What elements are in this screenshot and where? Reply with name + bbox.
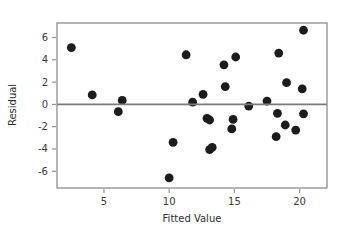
data-point [165, 174, 174, 183]
y-axis: 6420-2-4-6 [38, 32, 56, 177]
residual-scatter-figure: 5101520 6420-2-4-6 Fitted Value Residual [0, 0, 342, 231]
x-axis: 5101520 [101, 189, 306, 207]
data-point [281, 121, 290, 130]
residual-plot: 5101520 6420-2-4-6 Fitted Value Residual [0, 0, 342, 231]
data-point [169, 138, 178, 147]
data-point [291, 126, 300, 135]
y-tick-label: -2 [38, 121, 48, 132]
data-point [244, 102, 253, 111]
data-point [205, 116, 214, 125]
data-point [114, 107, 123, 116]
y-tick-label: 4 [42, 54, 48, 65]
data-point [299, 109, 308, 118]
data-point [67, 43, 76, 52]
data-point [227, 125, 236, 134]
data-point [199, 90, 208, 99]
y-tick-label: 2 [42, 77, 48, 88]
data-point [188, 98, 197, 107]
x-tick-label: 5 [101, 196, 107, 207]
data-point [88, 91, 97, 100]
y-tick-label: 6 [42, 32, 48, 43]
data-point [272, 132, 281, 141]
x-tick-label: 10 [163, 196, 176, 207]
x-axis-title: Fitted Value [163, 213, 222, 224]
data-point [231, 53, 240, 62]
data-point [182, 50, 191, 59]
y-axis-title: Residual [7, 84, 18, 126]
data-point [282, 78, 291, 87]
data-point [299, 26, 308, 35]
data-point [229, 115, 238, 124]
x-tick-label: 20 [293, 196, 306, 207]
data-point [118, 96, 127, 105]
y-tick-label: -4 [38, 143, 48, 154]
data-point [298, 84, 307, 93]
y-tick-label: -6 [38, 166, 48, 177]
x-tick-label: 15 [228, 196, 241, 207]
data-point [273, 109, 282, 118]
data-point [221, 82, 230, 91]
data-point [274, 49, 283, 58]
data-point [220, 60, 229, 69]
y-tick-label: 0 [42, 99, 48, 110]
data-point [208, 143, 217, 152]
